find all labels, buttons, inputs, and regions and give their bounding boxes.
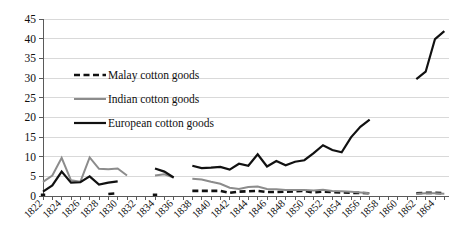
y-tick-label-15: 15 <box>25 131 37 143</box>
legend-label-0: Malay cotton goods <box>108 69 200 82</box>
y-tick-label-5: 5 <box>30 170 36 182</box>
y-tick-label-30: 30 <box>25 72 37 84</box>
y-tick-label-25: 25 <box>25 92 37 104</box>
y-tick-label-10: 10 <box>25 151 37 163</box>
legend-label-2: European cotton goods <box>108 117 215 130</box>
chart-svg: 051015202530354045 182218241826182818301… <box>0 0 453 246</box>
y-tick-label-20: 20 <box>25 111 37 123</box>
legend-label-1: Indian cotton goods <box>108 93 200 106</box>
line-chart: 051015202530354045 182218241826182818301… <box>0 0 453 246</box>
y-tick-label-35: 35 <box>25 52 37 64</box>
y-tick-label-40: 40 <box>25 33 37 45</box>
y-tick-label-45: 45 <box>25 13 37 25</box>
